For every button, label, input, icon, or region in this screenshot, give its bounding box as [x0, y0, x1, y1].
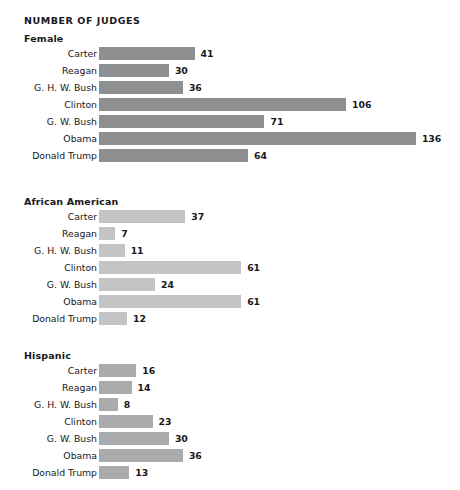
bar — [99, 132, 416, 145]
bar-track: 106 — [99, 98, 460, 111]
bar-value-label: 106 — [352, 98, 371, 111]
bar — [99, 278, 155, 291]
bar — [99, 210, 185, 223]
bar-row-label: G. H. W. Bush — [0, 81, 97, 94]
bar-row: G. W. Bush24 — [0, 278, 460, 295]
bar-row: G. H. W. Bush8 — [0, 398, 460, 415]
bar — [99, 466, 129, 479]
section-title: African American — [24, 196, 118, 207]
bar-track: 13 — [99, 466, 460, 479]
bar — [99, 415, 153, 428]
bar-row-label: Donald Trump — [0, 466, 97, 479]
bar — [99, 364, 136, 377]
bar-row: Reagan7 — [0, 227, 460, 244]
bar-row: G. W. Bush71 — [0, 115, 460, 132]
bar-value-label: 30 — [175, 64, 188, 77]
bar-value-label: 61 — [247, 261, 260, 274]
bar-track: 136 — [99, 132, 460, 145]
bar-rows: Carter41Reagan30G. H. W. Bush36Clinton10… — [0, 47, 460, 166]
bar-value-label: 24 — [161, 278, 174, 291]
bar-value-label: 16 — [142, 364, 155, 377]
bar-row: Donald Trump64 — [0, 149, 460, 166]
bar-row-label: Clinton — [0, 415, 97, 428]
bar — [99, 227, 115, 240]
bar-row: G. H. W. Bush11 — [0, 244, 460, 261]
section-title: Hispanic — [24, 350, 71, 361]
bar-track: 11 — [99, 244, 460, 257]
bar-row-label: Carter — [0, 364, 97, 377]
bar-track: 12 — [99, 312, 460, 325]
bar-row: Clinton61 — [0, 261, 460, 278]
bar-row: Obama36 — [0, 449, 460, 466]
bar-row-label: Clinton — [0, 261, 97, 274]
bar-value-label: 37 — [191, 210, 204, 223]
bar-row-label: Carter — [0, 210, 97, 223]
bar-track: 61 — [99, 261, 460, 274]
bar-value-label: 41 — [201, 47, 214, 60]
bar-row: G. H. W. Bush36 — [0, 81, 460, 98]
bar-value-label: 71 — [270, 115, 283, 128]
bar-track: 23 — [99, 415, 460, 428]
bar — [99, 312, 127, 325]
bar-row-label: G. W. Bush — [0, 115, 97, 128]
bar-track: 8 — [99, 398, 460, 411]
bar — [99, 432, 169, 445]
bar — [99, 115, 264, 128]
bar-value-label: 64 — [254, 149, 267, 162]
bar-track: 36 — [99, 449, 460, 462]
bar-value-label: 36 — [189, 81, 202, 94]
page-title: NUMBER OF JUDGES — [24, 15, 140, 26]
bar-value-label: 36 — [189, 449, 202, 462]
bar-value-label: 11 — [131, 244, 144, 257]
bar-track: 16 — [99, 364, 460, 377]
bar-row-label: Obama — [0, 295, 97, 308]
bar — [99, 81, 183, 94]
bar-row-label: Obama — [0, 449, 97, 462]
bar-value-label: 30 — [175, 432, 188, 445]
bar-row-label: Donald Trump — [0, 149, 97, 162]
bar-row-label: Reagan — [0, 64, 97, 77]
bar-track: 71 — [99, 115, 460, 128]
bar — [99, 295, 241, 308]
bar-track: 37 — [99, 210, 460, 223]
bar-row-label: G. H. W. Bush — [0, 244, 97, 257]
bar — [99, 149, 248, 162]
bar-row-label: Reagan — [0, 227, 97, 240]
bar-row-label: G. W. Bush — [0, 278, 97, 291]
bar-row: Clinton23 — [0, 415, 460, 432]
bar-row: Carter37 — [0, 210, 460, 227]
bar-row: Reagan30 — [0, 64, 460, 81]
bar-track: 30 — [99, 64, 460, 77]
bar-track: 64 — [99, 149, 460, 162]
bar-value-label: 8 — [124, 398, 130, 411]
bar-row: Carter41 — [0, 47, 460, 64]
bar-row: Carter16 — [0, 364, 460, 381]
bar-rows: Carter37Reagan7G. H. W. Bush11Clinton61G… — [0, 210, 460, 329]
bar-row: G. W. Bush30 — [0, 432, 460, 449]
bar — [99, 261, 241, 274]
bar — [99, 47, 195, 60]
bar-track: 36 — [99, 81, 460, 94]
bar-value-label: 12 — [133, 312, 146, 325]
bar-track: 30 — [99, 432, 460, 445]
bar-value-label: 61 — [247, 295, 260, 308]
section-title: Female — [24, 33, 63, 44]
bar-track: 24 — [99, 278, 460, 291]
bar-row: Reagan14 — [0, 381, 460, 398]
bar-track: 7 — [99, 227, 460, 240]
bar-row-label: G. H. W. Bush — [0, 398, 97, 411]
bar-row-label: Obama — [0, 132, 97, 145]
bar-row-label: Carter — [0, 47, 97, 60]
bar — [99, 381, 132, 394]
bar-value-label: 14 — [138, 381, 151, 394]
bar-value-label: 23 — [159, 415, 172, 428]
bar-row-label: Donald Trump — [0, 312, 97, 325]
bar-value-label: 13 — [135, 466, 148, 479]
bar-row: Obama136 — [0, 132, 460, 149]
bar-row: Clinton106 — [0, 98, 460, 115]
bar-row: Obama61 — [0, 295, 460, 312]
bar-rows: Carter16Reagan14G. H. W. Bush8Clinton23G… — [0, 364, 460, 483]
bar-track: 14 — [99, 381, 460, 394]
bar-row: Donald Trump13 — [0, 466, 460, 483]
bar-value-label: 136 — [422, 132, 441, 145]
